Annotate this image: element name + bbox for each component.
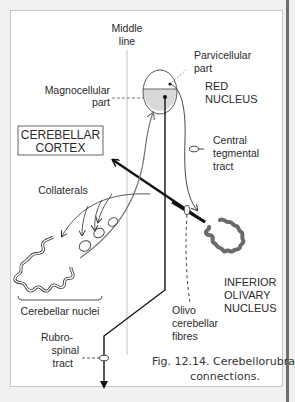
cerebellar-cortex-label-2: CORTEX bbox=[36, 141, 86, 155]
middle-line: Middle line bbox=[112, 22, 143, 355]
fastigial-nucleus bbox=[77, 239, 92, 254]
magnocellular-label-2: part bbox=[92, 96, 110, 108]
red-nucleus-label-2: NUCLEUS bbox=[205, 93, 258, 105]
rubrospinal-label-3: tract bbox=[53, 357, 74, 369]
middle-line-label-1: Middle bbox=[112, 22, 143, 34]
parvicellular-label-1: Parvicellular bbox=[194, 49, 252, 61]
olivary-label-1: INFERIOR bbox=[224, 276, 277, 288]
red-nucleus bbox=[143, 70, 177, 114]
olivary-label-2: OLIVARY bbox=[224, 289, 271, 301]
olivocerebellar-label-2: cerebellar bbox=[172, 317, 219, 329]
figure-page: Middle line Parvicellular part RED NUCLE… bbox=[0, 0, 295, 402]
olivocerebellar-label-3: fibres bbox=[172, 330, 198, 342]
olivocerebellar-leader bbox=[186, 215, 190, 302]
collaterals-label: Collaterals bbox=[38, 184, 88, 196]
magnocellular-label-1: Magnocellular bbox=[45, 84, 111, 96]
rubrospinal-label-1: Rubro- bbox=[41, 331, 74, 343]
central-tegmental-crossection bbox=[190, 146, 199, 152]
central-tegmental-label-2: tegmental bbox=[213, 147, 259, 159]
collateral-main bbox=[62, 194, 150, 236]
cerebellar-cortex-box: CEREBELLAR CORTEX bbox=[18, 126, 103, 155]
cerebellar-cortex-label-1: CEREBELLAR bbox=[21, 128, 101, 142]
figure-caption-line-2: connections. bbox=[190, 370, 260, 383]
central-tegmental-label-3: tract bbox=[213, 160, 234, 172]
rubrospinal-label-2: spinal bbox=[52, 344, 79, 356]
figure-caption-line-1: Fig. 12.14. Cerebellorubral bbox=[152, 355, 295, 368]
rubrospinal-tract bbox=[104, 97, 165, 385]
central-tegmental-label-1: Central bbox=[213, 134, 247, 146]
parvicellular-label-2: part bbox=[194, 62, 212, 74]
inferior-olivary-nucleus bbox=[206, 220, 244, 252]
cerebellar-nuclei-bracket bbox=[18, 296, 102, 300]
olivocerebellar-label-1: Olivo bbox=[172, 304, 196, 316]
rubrospinal-crossection bbox=[100, 355, 109, 361]
red-nucleus-label-1: RED bbox=[205, 80, 228, 92]
olivary-label-3: NUCLEUS bbox=[224, 302, 277, 314]
olivocerebellar-crossection bbox=[184, 206, 190, 215]
cerebellar-nuclei-label: Cerebellar nuclei bbox=[21, 305, 100, 317]
cerebellorubral-diagram: Middle line Parvicellular part RED NUCLE… bbox=[0, 0, 295, 402]
middle-line-label-2: line bbox=[119, 35, 136, 47]
collateral-branch-2 bbox=[95, 200, 102, 230]
